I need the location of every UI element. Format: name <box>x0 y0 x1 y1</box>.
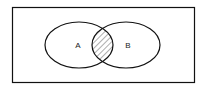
venn-diagram: A B <box>0 0 205 86</box>
set-b-label: B <box>125 41 130 50</box>
set-a-label: A <box>75 41 81 50</box>
